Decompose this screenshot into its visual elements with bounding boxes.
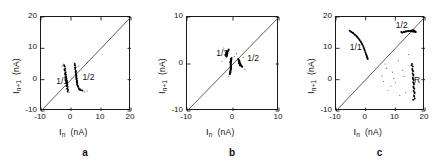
y-axis-label: In+1 (nA) [305,58,317,94]
data-point [358,38,360,40]
data-point [413,30,415,32]
data-point [405,92,406,93]
data-point [411,64,413,66]
data-point [357,36,359,38]
x-axis-label: In (nA) [354,126,382,138]
data-point [404,31,406,33]
data-point [414,98,416,100]
data-point [395,82,396,83]
data-point [364,50,366,52]
plot-area-c [335,16,424,110]
data-point [412,69,414,71]
data-point [366,55,368,57]
x-tick-label: 10 [384,113,404,121]
data-point [381,75,382,76]
cluster-label-R: R [414,75,420,85]
data-point [413,87,415,89]
figure-three-panel-return-maps: 1/11/2-1001020-1001020In (nA)In+1 (nA)a1… [0,0,444,163]
data-point [404,76,405,77]
data-point [414,91,416,93]
data-point [387,90,388,91]
data-point [384,63,385,64]
data-point [386,68,387,69]
data-point [392,72,393,73]
data-point [362,45,364,47]
y-tick-label: 20 [312,12,332,20]
data-point [393,78,394,79]
x-tick-label: 0 [355,113,375,121]
x-tick-label: 20 [414,113,434,121]
data-point [383,81,384,82]
x-tick-label: -10 [325,113,345,121]
data-point [402,70,403,71]
data-series-scatter-noise [381,54,409,96]
data-point [350,30,352,32]
data-point [405,31,407,33]
panel-letter-c: c [365,147,395,158]
data-point [353,33,355,35]
panel-c: 1/11/2R-1001020-1001020In (nA)In+1 (nA)c [0,0,444,163]
data-point [352,32,354,34]
data-series-1-2 [400,29,416,33]
data-point [402,32,404,34]
data-point [355,35,357,37]
plot-canvas-c [336,17,425,111]
cluster-label-1-1: 1/1 [350,42,362,52]
y-tick-label: 10 [312,43,332,51]
data-point [412,99,414,101]
data-point [413,96,415,98]
data-point [399,95,400,96]
data-point [363,47,365,49]
data-point [390,85,391,86]
data-point [367,58,369,60]
data-point [407,30,409,32]
data-point [365,52,367,54]
data-point [415,31,417,33]
data-point [411,30,413,32]
data-point [408,54,409,55]
data-point [398,60,399,61]
cluster-label-1-2: 1/2 [396,20,408,30]
